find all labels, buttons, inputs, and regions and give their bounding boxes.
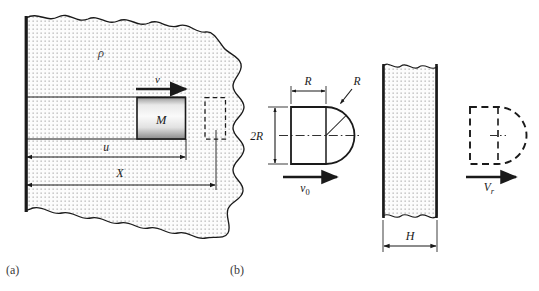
diameter-label: 2R xyxy=(250,130,263,142)
residual-velocity-label: Vr xyxy=(484,181,495,196)
panel-b: R R 2R v0 H Vr xyxy=(250,64,526,252)
x-dimension-label: X xyxy=(115,166,124,180)
mechanics-figure: ρ v M u X R R xyxy=(0,0,539,291)
R-length-label: R xyxy=(303,75,311,87)
mass-label: M xyxy=(155,113,167,127)
H-dimension-label: H xyxy=(405,229,416,243)
panel-b-caption: (b) xyxy=(230,263,244,278)
plate-region xyxy=(383,64,437,218)
R-radius-leader-arrow xyxy=(341,89,353,104)
impact-velocity-label: v0 xyxy=(300,182,309,197)
R-radius-label: R xyxy=(352,75,360,87)
panel-a: ρ v M u X xyxy=(26,15,244,238)
panel-a-caption: (a) xyxy=(6,263,19,278)
u-dimension-label: u xyxy=(103,141,109,153)
density-label: ρ xyxy=(97,46,104,60)
velocity-label-a: v xyxy=(155,73,160,85)
target-medium-region xyxy=(26,15,244,238)
